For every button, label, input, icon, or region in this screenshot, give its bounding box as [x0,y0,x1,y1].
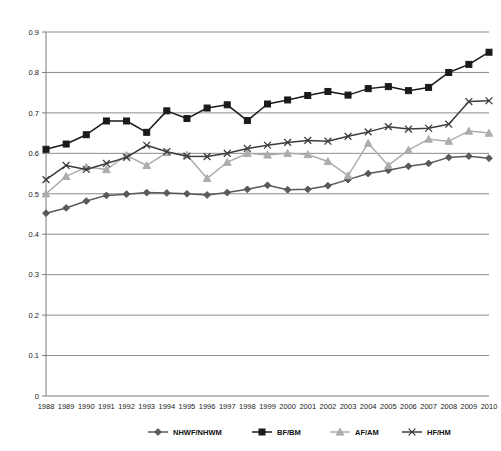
y-axis-tick-label: 0.8 [29,68,39,77]
chart-background [0,0,501,451]
x-axis-tick-label: 1989 [58,402,75,411]
x-axis-tick-label: 1997 [219,402,236,411]
y-axis-tick-label: 0.1 [29,351,39,360]
y-axis-tick-label: 0.2 [29,311,39,320]
data-point-marker [426,84,432,90]
data-point-marker [124,118,130,124]
x-axis-tick-label: 1999 [259,402,276,411]
x-axis-tick-label: 2010 [481,402,498,411]
x-axis-tick-label: 2009 [461,402,478,411]
legend-label: BF/BM [277,428,301,437]
x-axis-tick-label: 1996 [199,402,216,411]
y-axis-tick-label: 0.5 [29,190,39,199]
x-axis-tick-label: 2003 [340,402,357,411]
x-axis-tick-label: 2005 [380,402,397,411]
x-axis-tick-label: 1991 [98,402,115,411]
y-axis-tick-label: 0.3 [29,270,39,279]
y-axis-tick-label: 0 [35,392,39,401]
data-point-marker [385,84,391,90]
x-axis-tick-label: 2006 [400,402,417,411]
data-point-marker [259,429,265,435]
line-chart: 00.10.20.30.40.50.60.70.80.9 19881989199… [0,0,501,451]
x-axis-tick-label: 1993 [138,402,155,411]
data-point-marker [164,108,170,114]
data-point-marker [486,49,492,55]
y-axis-tick-label: 0.4 [29,230,39,239]
x-axis-tick-label: 2007 [420,402,437,411]
x-axis-tick-label: 2000 [279,402,296,411]
data-point-marker [204,105,210,111]
data-point-marker [43,146,49,152]
data-point-marker [83,132,89,138]
x-axis-tick-label: 2004 [360,402,377,411]
x-axis-tick-label: 2002 [320,402,337,411]
data-point-marker [466,61,472,67]
x-axis-tick-label: 1995 [179,402,196,411]
x-axis-tick-label: 2001 [299,402,316,411]
x-axis-tick-label: 2008 [440,402,457,411]
data-point-marker [103,118,109,124]
data-point-marker [285,97,291,103]
data-point-marker [144,129,150,135]
x-axis-tick-label: 1990 [78,402,95,411]
data-point-marker [265,101,271,107]
x-axis-tick-labels: 1988198919901991199219931994199519961997… [38,402,498,411]
y-axis-tick-label: 0.9 [29,28,39,37]
legend-label: NHWF/NHWM [173,428,222,437]
data-point-marker [224,102,230,108]
x-axis-tick-label: 1992 [118,402,135,411]
data-point-marker [305,92,311,98]
data-point-marker [184,116,190,122]
x-axis-tick-label: 1994 [158,402,175,411]
y-axis-tick-label: 0.7 [29,109,39,118]
chart-container: 00.10.20.30.40.50.60.70.80.9 19881989199… [0,0,501,451]
data-point-marker [63,141,69,147]
legend-label: AF/AM [355,428,379,437]
x-axis-tick-label: 1998 [239,402,256,411]
data-point-marker [244,118,250,124]
y-axis-tick-label: 0.6 [29,149,39,158]
data-point-marker [365,86,371,92]
data-point-marker [325,88,331,94]
data-point-marker [345,92,351,98]
data-point-marker [405,88,411,94]
legend-label: HF/HM [427,428,451,437]
x-axis-tick-label: 1988 [38,402,55,411]
data-point-marker [446,69,452,75]
